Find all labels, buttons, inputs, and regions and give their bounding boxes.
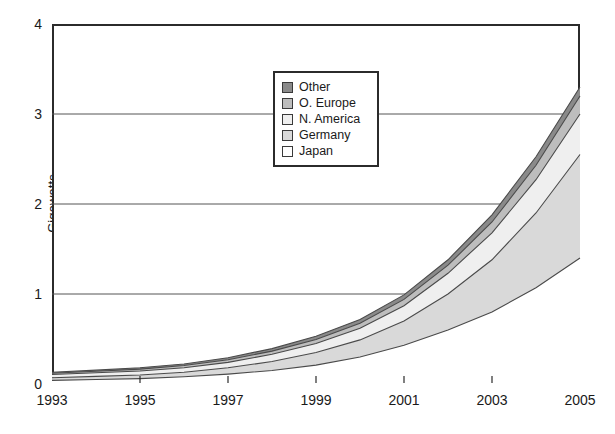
legend-swatch-japan (282, 146, 293, 157)
legend-label-other: Other (299, 81, 330, 94)
legend-swatch-germany (282, 130, 293, 141)
legend-swatch-o-europe (282, 98, 293, 109)
legend-item-o-europe[interactable]: O. Europe (282, 95, 370, 111)
legend-label-japan: Japan (299, 145, 333, 158)
legend-label-n-america: N. America (299, 113, 360, 126)
legend-item-other[interactable]: Other (282, 79, 370, 95)
legend-label-o-europe: O. Europe (299, 97, 356, 110)
chart-legend: Other O. Europe N. America Germany Japan (273, 71, 379, 167)
chart-canvas (0, 0, 615, 434)
legend-item-germany[interactable]: Germany (282, 127, 370, 143)
legend-item-n-america[interactable]: N. America (282, 111, 370, 127)
legend-item-japan[interactable]: Japan (282, 143, 370, 159)
chart-figure: Gigawatts 4 3 2 1 0 1993 1995 1997 1999 … (0, 0, 615, 434)
legend-label-germany: Germany (299, 129, 350, 142)
legend-swatch-n-america (282, 114, 293, 125)
legend-swatch-other (282, 82, 293, 93)
